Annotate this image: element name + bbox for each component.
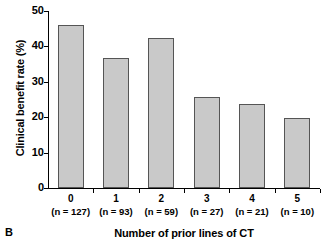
x-tick-label: 5	[275, 192, 320, 205]
y-tick-label: 40	[22, 40, 44, 51]
x-tick-group-size: (n = 59)	[139, 205, 184, 218]
x-tick-group-size: (n = 93)	[93, 205, 138, 218]
y-tick-label: 20	[22, 111, 44, 122]
x-tick-group: 2(n = 59)	[139, 192, 184, 218]
x-tick-group: 1(n = 93)	[93, 192, 138, 218]
x-tick-group-size: (n = 10)	[275, 205, 320, 218]
x-tick-label: 0	[48, 192, 93, 205]
y-tick-mark	[44, 188, 48, 189]
x-tick-group-size: (n = 127)	[48, 205, 93, 218]
x-tick-group: 5(n = 10)	[275, 192, 320, 218]
y-tick-mark	[44, 117, 48, 118]
plot-area	[48, 11, 320, 188]
bar	[194, 97, 220, 188]
y-tick-label: 50	[22, 5, 44, 16]
x-tick-group-size: (n = 27)	[184, 205, 229, 218]
bar	[148, 38, 174, 188]
y-tick-label: 10	[22, 147, 44, 158]
y-axis-tick-labels: 01020304050	[20, 0, 44, 245]
bar	[103, 58, 129, 188]
x-tick-label: 4	[229, 192, 274, 205]
x-tick-label: 1	[93, 192, 138, 205]
y-tick-mark	[44, 11, 48, 12]
bar	[284, 118, 310, 188]
bar-chart-figure: Clinical benefit rate (%) 01020304050 0(…	[0, 0, 325, 245]
y-tick-mark	[44, 46, 48, 47]
y-tick-mark	[44, 153, 48, 154]
x-axis-title: Number of prior lines of CT	[48, 227, 320, 239]
y-axis-line	[48, 11, 49, 189]
x-tick-group-size: (n = 21)	[229, 205, 274, 218]
x-tick-group: 4(n = 21)	[229, 192, 274, 218]
y-tick-label: 30	[22, 76, 44, 87]
x-tick-group: 0(n = 127)	[48, 192, 93, 218]
x-tick-group: 3(n = 27)	[184, 192, 229, 218]
y-tick-mark	[44, 82, 48, 83]
panel-label: B	[5, 226, 13, 238]
bar	[58, 25, 84, 188]
x-tick-label: 3	[184, 192, 229, 205]
x-tick-mark	[320, 189, 321, 193]
bar	[239, 104, 265, 188]
x-tick-label: 2	[139, 192, 184, 205]
y-tick-label: 0	[22, 182, 44, 193]
x-axis-tick-labels: 0(n = 127)1(n = 93)2(n = 59)3(n = 27)4(n…	[48, 192, 320, 226]
